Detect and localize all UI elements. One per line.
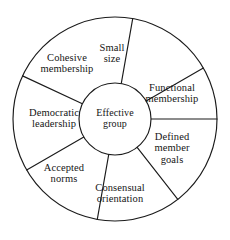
spoke-democratic-leadership (27, 137, 84, 170)
spoke-functional-membership (146, 68, 203, 101)
hub-circle (79, 83, 151, 155)
spoke-consensual-orientation (137, 147, 178, 199)
spoke-cohesive-membership (23, 76, 83, 104)
spoke-small-size (121, 19, 132, 84)
wheel-graphic (0, 0, 230, 240)
spoke-accepted-norms (97, 154, 108, 219)
wheel-diagram: Effectivegroup SmallsizeFunctionalmember… (0, 0, 230, 240)
